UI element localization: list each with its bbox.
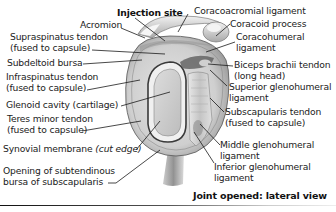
label-line: Supraspinatus tendon <box>10 32 108 43</box>
label-middle-glenohumeral-ligament: Middle glenohumeral ligament <box>220 140 314 161</box>
figure-subtitle: Joint opened: lateral view <box>193 191 327 202</box>
label-teres-minor-tendon: Teres minor tendon (fused to capsule) <box>7 114 93 135</box>
label-line: Infraspinatus tendon <box>6 72 98 83</box>
label-biceps-brachii-tendon: Biceps brachii tendon (long head) <box>234 60 330 81</box>
glenoid-cavity-shape <box>148 62 186 142</box>
label-line: Coracohumeral <box>236 32 304 43</box>
label-subscapularis-tendon: Subscapularis tendon (fused to capsule) <box>225 107 321 128</box>
label-line: Teres minor tendon <box>7 114 93 125</box>
label-italic: (cut edge) <box>95 143 141 154</box>
label-infraspinatus-tendon: Infraspinatus tendon (fused to capsule) <box>6 72 98 93</box>
label-line: Inferior glenohumeral <box>214 162 311 173</box>
label-line: ligament <box>236 43 304 54</box>
label-line: (fused to capsule) <box>6 83 98 94</box>
label-line: (fused to capsule) <box>10 43 108 54</box>
label-line: Superior glenohumeral <box>229 82 331 93</box>
label-line: bursa of subscapularis <box>3 177 115 188</box>
label-line: Opening of subtendinous <box>3 166 115 177</box>
label-line: (long head) <box>234 71 330 82</box>
label-superior-glenohumeral-ligament: Superior glenohumeral ligament <box>229 82 331 103</box>
label-text: Synovial membrane <box>3 143 93 154</box>
label-line: (fused to capsule) <box>7 125 93 136</box>
label-inferior-glenohumeral-ligament: Inferior glenohumeral ligament <box>214 162 311 183</box>
coracoid-process-shape <box>203 22 229 42</box>
label-line: Biceps brachii tendon <box>234 60 330 71</box>
label-acromion: Acromion <box>80 20 122 31</box>
label-line: ligament <box>229 93 331 104</box>
label-line: Subscapularis tendon <box>225 107 321 118</box>
label-line: (fused to capsule) <box>225 118 321 129</box>
label-glenoid-cavity: Glenoid cavity (cartilage) <box>6 100 118 111</box>
label-synovial-membrane: Synovial membrane (cut edge) <box>3 144 141 155</box>
label-coracoacromial-ligament: Coracoacromial ligament <box>194 6 306 17</box>
label-subdeltoid-bursa: Subdeltoid bursa <box>7 58 83 69</box>
label-supraspinatus-tendon: Supraspinatus tendon (fused to capsule) <box>10 32 108 53</box>
label-coracohumeral-ligament: Coracohumeral ligament <box>236 32 304 53</box>
label-coracoid-process: Coracoid process <box>230 19 306 30</box>
label-opening-subtendinous-bursa: Opening of subtendinous bursa of subscap… <box>3 166 115 187</box>
label-line: ligament <box>220 151 314 162</box>
bottom-divider <box>0 205 336 206</box>
label-injection-site: Injection site <box>117 8 183 19</box>
label-line: ligament <box>214 173 311 184</box>
label-line: Middle glenohumeral <box>220 140 314 151</box>
